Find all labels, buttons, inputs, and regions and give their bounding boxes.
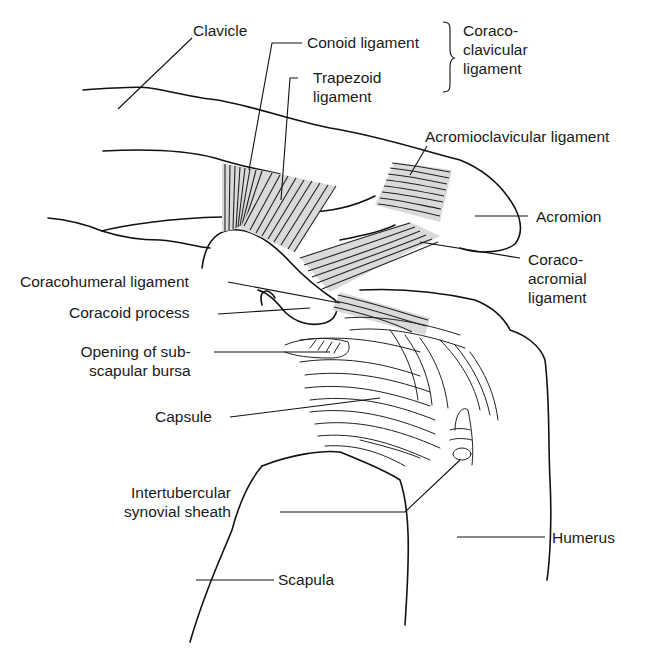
label-subscapular-line-2: scapular bursa: [78, 361, 191, 380]
label-trapezoid-line-1: Trapezoid: [313, 68, 381, 87]
label-trapezoid-line-2: ligament: [313, 87, 381, 106]
coracoacromial-ligament-drawing: [300, 222, 440, 292]
label-coracoclavicular-line-1: Coraco-: [463, 21, 528, 40]
label-acromion: Acromion: [536, 207, 601, 226]
label-coracoclavicular-ligament: Coraco- clavicular ligament: [463, 21, 528, 78]
intertubercular-sheath-drawing: [450, 409, 473, 465]
label-coracoclavicular-line-2: clavicular: [463, 40, 528, 59]
label-clavicle: Clavicle: [193, 21, 247, 40]
label-coracohumeral-ligament: Coracohumeral ligament: [20, 272, 189, 291]
label-intertubercular-line-1: Intertubercular: [123, 483, 231, 502]
label-conoid-ligament: Conoid ligament: [307, 33, 419, 52]
acromioclavicular-ligament-drawing: [375, 162, 452, 222]
capsule-drawing: [300, 317, 498, 466]
humerus-drawing: [190, 289, 551, 642]
coracohumeral-ligament-drawing: [332, 292, 430, 335]
label-trapezoid-ligament: Trapezoid ligament: [313, 68, 381, 106]
label-coracoacromial-ligament: Coraco- acromial ligament: [528, 250, 587, 307]
label-humerus: Humerus: [552, 528, 615, 547]
label-acromioclavicular-ligament: Acromioclavicular ligament: [425, 127, 609, 146]
subscapular-bursa-drawing: [285, 338, 349, 358]
label-coracoacromial-line-1: Coraco-: [528, 250, 587, 269]
label-subscapular-bursa: Opening of sub- scapular bursa: [78, 342, 191, 380]
label-intertubercular-line-2: synovial sheath: [123, 502, 231, 521]
label-coracoid-process: Coracoid process: [69, 303, 190, 322]
label-coracoacromial-line-3: ligament: [528, 288, 587, 307]
label-intertubercular-sheath: Intertubercular synovial sheath: [123, 483, 231, 521]
label-scapula: Scapula: [278, 570, 334, 589]
label-coracoclavicular-line-3: ligament: [463, 59, 528, 78]
coracoclavicular-brace: [443, 22, 455, 92]
label-subscapular-line-1: Opening of sub-: [78, 342, 191, 361]
label-coracoacromial-line-2: acromial: [528, 269, 587, 288]
label-capsule: Capsule: [155, 407, 212, 426]
